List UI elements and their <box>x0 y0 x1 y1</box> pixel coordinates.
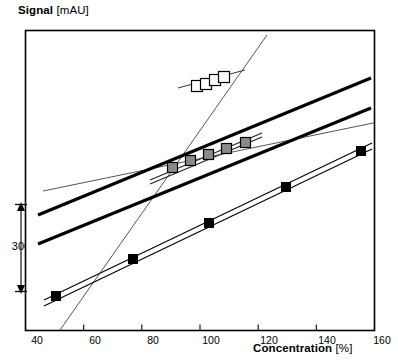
plot-frame <box>26 31 375 331</box>
chart-container: Signal [mAU] Concentration [%] 300 40 60… <box>0 0 398 364</box>
plot-svg <box>0 0 398 364</box>
